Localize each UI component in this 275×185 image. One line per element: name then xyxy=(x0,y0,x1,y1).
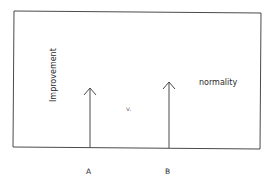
diagram-canvas xyxy=(0,0,275,185)
arrow-a xyxy=(84,88,96,148)
y-axis-label: Improvement xyxy=(50,48,58,102)
arrow-a-label: A xyxy=(86,168,91,176)
normality-label: normality xyxy=(199,79,237,87)
arrow-b xyxy=(163,82,175,148)
versus-label: v. xyxy=(126,106,131,113)
arrow-b-label: B xyxy=(165,168,170,176)
